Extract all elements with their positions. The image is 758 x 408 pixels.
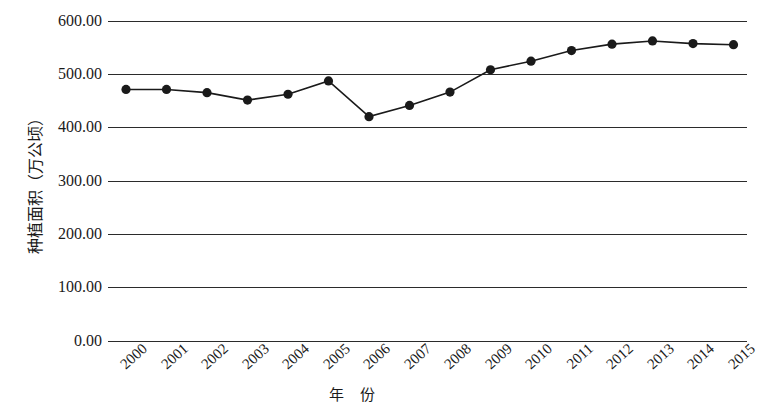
- y-tick-label: 0.00: [2, 333, 102, 349]
- series-markers: [121, 36, 738, 121]
- series-layer: [108, 0, 747, 345]
- x-tick-label: 2015: [716, 341, 757, 380]
- data-point-marker: [526, 57, 535, 66]
- x-tick-label-text: 2004: [280, 341, 312, 372]
- x-tick-label-text: 2006: [361, 341, 393, 372]
- data-point-marker: [283, 90, 292, 99]
- x-tick-label-text: 2013: [644, 341, 676, 372]
- y-tick-label: 600.00: [2, 13, 102, 29]
- series-line: [126, 41, 734, 117]
- x-tick-label: 2014: [676, 341, 717, 380]
- x-tick-label-text: 2014: [685, 341, 717, 372]
- data-point-marker: [445, 88, 454, 97]
- data-point-marker: [648, 36, 657, 45]
- x-tick-label: 2007: [392, 341, 433, 380]
- data-point-marker: [688, 39, 697, 48]
- x-tick-label: 2009: [473, 341, 514, 380]
- x-tick-label: 2001: [149, 341, 190, 380]
- x-tick-label-text: 2011: [564, 341, 596, 372]
- y-tick-label: 200.00: [2, 226, 102, 242]
- data-point-marker: [729, 40, 738, 49]
- data-point-marker: [486, 65, 495, 74]
- x-tick-label-text: 2009: [482, 341, 514, 372]
- x-axis-tick-labels: 2000200120022003200420052006200720082009…: [108, 341, 747, 385]
- x-tick-label-text: 2008: [442, 341, 474, 372]
- x-tick-label: 2008: [433, 341, 474, 380]
- x-tick-label-text: 2007: [401, 341, 433, 372]
- x-tick-label: 2012: [595, 341, 636, 380]
- x-tick-label: 2011: [554, 341, 595, 380]
- x-tick-label: 2013: [635, 341, 676, 380]
- y-axis-tick-labels: 600.00500.00400.00300.00200.00100.000.00: [0, 0, 102, 360]
- data-point-marker: [162, 85, 171, 94]
- data-point-marker: [243, 96, 252, 105]
- x-tick-label: 2000: [109, 341, 150, 380]
- x-tick-label-text: 2005: [320, 341, 352, 372]
- x-axis-title: 年 份: [275, 383, 435, 404]
- x-tick-label: 2005: [311, 341, 352, 380]
- x-tick-label-text: 2003: [239, 341, 271, 372]
- y-tick-label: 100.00: [2, 279, 102, 295]
- data-point-marker: [202, 88, 211, 97]
- x-tick-label-text: 2000: [118, 341, 150, 372]
- data-point-marker: [364, 112, 373, 121]
- x-tick-label: 2002: [190, 341, 231, 380]
- plot-area: [108, 0, 747, 345]
- x-tick-label: 2003: [230, 341, 271, 380]
- data-point-marker: [121, 85, 130, 94]
- x-tick-label-text: 2010: [523, 341, 555, 372]
- y-tick-label: 400.00: [2, 119, 102, 135]
- data-point-marker: [567, 46, 576, 55]
- data-point-marker: [607, 40, 616, 49]
- x-tick-label: 2010: [514, 341, 555, 380]
- y-tick-label: 300.00: [2, 173, 102, 189]
- data-point-marker: [324, 76, 333, 85]
- x-tick-label-text: 2002: [199, 341, 231, 372]
- x-tick-label-text: 2001: [158, 341, 190, 372]
- y-tick-label: 500.00: [2, 66, 102, 82]
- x-tick-label-text: 2015: [725, 341, 757, 372]
- x-tick-label: 2006: [352, 341, 393, 380]
- x-tick-label-text: 2012: [604, 341, 636, 372]
- data-point-marker: [405, 101, 414, 110]
- x-tick-label: 2004: [271, 341, 312, 380]
